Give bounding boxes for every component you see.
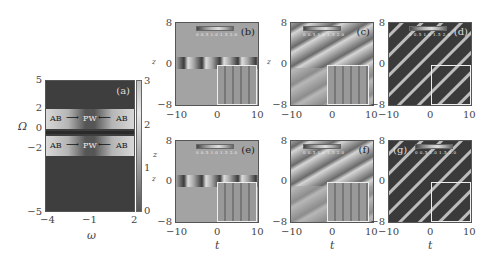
ytick: 8 bbox=[371, 18, 385, 28]
xtick: −10 bbox=[378, 227, 399, 237]
mini-colorbar-ticks: 0 0.5 1.0 1.5 2.0 bbox=[303, 150, 345, 155]
xtick: 0 bbox=[427, 110, 433, 120]
colorbar-tick: 0 bbox=[144, 206, 150, 216]
inset-plot bbox=[327, 182, 369, 222]
mini-colorbar-ticks: 0 0.5 1.0 1.5 2.0 bbox=[409, 32, 451, 37]
panel-label: (d) bbox=[454, 26, 468, 37]
ytick: 0 bbox=[371, 59, 385, 69]
xtick: 0 bbox=[427, 227, 433, 237]
mini-colorbar-ticks: 0 0.5 1.0 1.5 2.0 bbox=[196, 150, 238, 155]
mini-colorbar bbox=[415, 144, 453, 149]
inset-plot bbox=[217, 182, 257, 222]
x-axis-label: ω bbox=[87, 229, 96, 242]
colorbar-tick: 2 bbox=[144, 120, 150, 130]
ytick: 0 bbox=[158, 59, 172, 69]
arrow-left-icon: ⟵ bbox=[98, 112, 111, 122]
xtick: −10 bbox=[281, 110, 302, 120]
arrow-right-icon: ⟶ bbox=[66, 139, 79, 149]
panel-d-plot: 0 0.5 1.0 1.5 2.0 (d) bbox=[388, 22, 472, 106]
mini-colorbar-ticks: 0 0.5 1.0 1.5 2.0 bbox=[303, 32, 345, 37]
mini-colorbar bbox=[303, 144, 341, 149]
annotation-ab-lower-left: AB bbox=[50, 141, 62, 150]
colorbar-tick: 1 bbox=[144, 163, 150, 173]
colorbar-label: z bbox=[153, 150, 157, 159]
ytick: 0 bbox=[371, 176, 385, 186]
mini-colorbar bbox=[196, 26, 234, 31]
panel-label: (a) bbox=[116, 85, 130, 96]
x-axis-label: t bbox=[215, 239, 219, 252]
xtick: 10 bbox=[463, 110, 476, 120]
xtick: −4 bbox=[40, 215, 55, 225]
inset-plot bbox=[431, 65, 471, 105]
annotation-ab-upper-right: AB bbox=[116, 114, 128, 123]
xtick: 2 bbox=[131, 215, 137, 225]
xtick: −1 bbox=[82, 215, 97, 225]
mini-colorbar bbox=[196, 144, 234, 149]
ytick: 0 bbox=[30, 123, 42, 133]
mini-colorbar-ticks: 0 0.5 1.0 1.5 2.0 bbox=[415, 150, 457, 155]
panel-label: (g) bbox=[393, 144, 407, 155]
panel-b-plot: 0 0.5 1.0 1.5 2.0 (b) bbox=[175, 22, 259, 106]
ytick: −2 bbox=[26, 143, 42, 153]
arrow-right-icon: ⟶ bbox=[66, 112, 79, 122]
xtick: −10 bbox=[281, 227, 302, 237]
annotation-pw-upper: PW bbox=[83, 114, 97, 123]
panel-a-plot: AB ⟶ PW ⟵ AB AB ⟶ PW ⟵ AB (a) bbox=[45, 80, 135, 212]
x-axis-label: t bbox=[330, 239, 334, 252]
ytick: 8 bbox=[158, 136, 172, 146]
panel-g-plot: 0 0.5 1.0 1.5 2.0 (g) bbox=[388, 140, 472, 223]
annotation-pw-lower: PW bbox=[83, 141, 97, 150]
mini-colorbar bbox=[303, 26, 341, 31]
annotation-ab-lower-right: AB bbox=[116, 141, 128, 150]
arrow-left-icon: ⟵ bbox=[98, 139, 111, 149]
y-axis-label: Ω bbox=[18, 120, 27, 133]
panel-c-plot: 0 0.5 1.0 1.5 2.0 (c) bbox=[290, 22, 374, 106]
panel-label: (c) bbox=[357, 26, 370, 37]
x-axis-label: t bbox=[428, 239, 432, 252]
y-axis-label: z bbox=[152, 175, 156, 183]
xtick: 10 bbox=[365, 110, 378, 120]
xtick: −10 bbox=[378, 110, 399, 120]
panel-label: (f) bbox=[358, 144, 370, 155]
colorbar bbox=[136, 80, 142, 212]
inset-plot bbox=[327, 65, 369, 105]
ytick: 2 bbox=[30, 103, 42, 113]
xtick: 10 bbox=[463, 227, 476, 237]
panel-e-plot: 0 0.5 1.0 1.5 2.0 (e) bbox=[175, 140, 259, 223]
xtick: −10 bbox=[166, 110, 187, 120]
inset-plot bbox=[431, 182, 471, 222]
xtick: 10 bbox=[251, 227, 264, 237]
ytick: 8 bbox=[371, 136, 385, 146]
annotation-ab-upper-left: AB bbox=[50, 114, 62, 123]
center-line bbox=[46, 131, 134, 134]
xtick: 0 bbox=[329, 227, 335, 237]
mini-colorbar-ticks: 0 0.5 1.0 1.5 2.0 bbox=[196, 32, 238, 37]
panel-label: (e) bbox=[241, 144, 255, 155]
ytick: 8 bbox=[273, 18, 287, 28]
xtick: 0 bbox=[214, 110, 220, 120]
panel-f-plot: 0 0.5 1.0 1.5 2.0 (f) bbox=[290, 140, 374, 223]
xtick: 0 bbox=[214, 227, 220, 237]
y-axis-label: z bbox=[267, 58, 271, 66]
ytick: 0 bbox=[273, 59, 287, 69]
xtick: 10 bbox=[251, 110, 264, 120]
inset-plot bbox=[217, 65, 257, 105]
ytick: 8 bbox=[158, 18, 172, 28]
xtick: 0 bbox=[329, 110, 335, 120]
panel-label: (b) bbox=[241, 26, 255, 37]
ytick: 8 bbox=[273, 136, 287, 146]
ytick: 5 bbox=[30, 75, 42, 85]
xtick: 10 bbox=[365, 227, 378, 237]
ytick: 0 bbox=[273, 176, 287, 186]
y-axis-label: z bbox=[152, 58, 156, 66]
colorbar-tick: 3 bbox=[144, 76, 150, 86]
xtick: −10 bbox=[166, 227, 187, 237]
ytick: 0 bbox=[158, 176, 172, 186]
mini-colorbar bbox=[409, 26, 447, 31]
